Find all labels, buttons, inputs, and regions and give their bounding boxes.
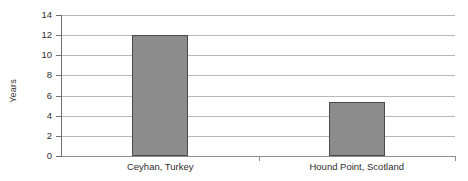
x-axis-category-label: Hound Point, Scotland bbox=[259, 162, 456, 172]
gridline bbox=[62, 116, 455, 117]
x-axis-end-tick bbox=[455, 156, 456, 161]
bar-chart: Years 02468101214 Ceyhan, TurkeyHound Po… bbox=[0, 0, 468, 181]
gridline bbox=[62, 55, 455, 56]
y-axis-tick-label: 0 bbox=[26, 151, 52, 161]
gridline bbox=[62, 136, 455, 137]
bar bbox=[132, 35, 188, 156]
bar bbox=[329, 102, 385, 156]
gridline bbox=[62, 35, 455, 36]
y-axis-tick-label: 14 bbox=[26, 10, 52, 20]
y-axis-tick-label: 6 bbox=[26, 91, 52, 101]
y-axis-tick-label: 8 bbox=[26, 70, 52, 80]
y-axis-title: Years bbox=[2, 0, 24, 181]
y-axis-tick-label: 4 bbox=[26, 111, 52, 121]
x-axis-category-label: Ceyhan, Turkey bbox=[62, 162, 259, 172]
y-axis-title-label: Years bbox=[8, 79, 18, 103]
y-axis-tick-label: 12 bbox=[26, 30, 52, 40]
y-axis-tick-label: 10 bbox=[26, 50, 52, 60]
x-axis-tick bbox=[259, 156, 260, 161]
gridline bbox=[62, 15, 455, 16]
gridline bbox=[62, 75, 455, 76]
gridline bbox=[62, 96, 455, 97]
y-axis-tick-label: 2 bbox=[26, 131, 52, 141]
plot-area bbox=[62, 15, 455, 156]
